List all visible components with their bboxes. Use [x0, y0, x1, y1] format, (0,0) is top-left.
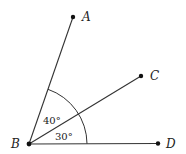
- ray-bd: [29, 144, 158, 145]
- point-d-dot: [156, 141, 160, 145]
- label-a: A: [81, 10, 91, 24]
- label-b: B: [10, 137, 20, 151]
- point-a-dot: [71, 15, 75, 19]
- label-c: C: [150, 69, 159, 83]
- angle-diagram: A B C D 40° 30°: [0, 0, 186, 154]
- ray-bc: [29, 76, 141, 144]
- point-b-dot: [27, 142, 32, 147]
- angle-abc-label: 40°: [43, 115, 61, 126]
- angle-cbd-label: 30°: [55, 131, 73, 142]
- label-d: D: [165, 137, 176, 151]
- point-c-dot: [139, 74, 143, 78]
